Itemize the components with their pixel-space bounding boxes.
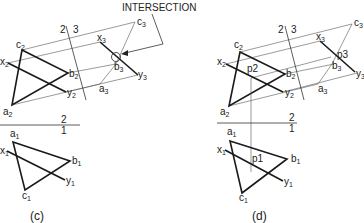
fold-2-1-bottom: 1 [289,123,295,134]
label-b1: b1 [72,155,82,167]
line-xy-view1 [7,151,65,180]
label-c3: c3 [137,16,146,28]
label-b3: b3 [332,60,342,72]
label-p1: p1 [252,153,264,164]
caption-c: (c) [30,209,44,223]
plane-abc-view2 [12,50,68,105]
label-a3: a3 [318,83,328,95]
label-a2: a2 [3,106,13,118]
label-x1: x1 [217,144,226,156]
label-c2: c2 [234,39,243,51]
label-b3: b3 [114,61,124,73]
fold-2-1-bottom: 1 [61,125,67,136]
label-x3: x3 [316,31,325,43]
fold-2-3-left: 2 [278,24,284,35]
descriptive-geometry-diagram: 2 3 INTERSECTION c2 x2 b2 y2 a2 c3 x3 b3… [0,0,364,223]
label-c1: c1 [22,190,31,202]
label-y3: y3 [138,69,147,81]
fold-2-3-right: 3 [73,24,79,35]
fold-2-3-right: 3 [291,24,297,35]
label-y2: y2 [67,87,76,99]
label-a1: a1 [227,126,237,138]
label-p3: p3 [337,49,349,60]
label-a1: a1 [10,128,20,140]
caption-d: (d) [252,209,267,223]
label-y2: y2 [285,87,294,99]
plane-abc-view1 [13,142,70,190]
fold-2-1-top: 2 [61,114,67,125]
label-x1: x1 [0,145,9,157]
label-b2: b2 [69,68,79,80]
label-x3: x3 [97,32,106,44]
label-c1: c1 [239,192,248,204]
intersection-label: INTERSECTION [122,2,196,13]
label-y1: y1 [284,176,293,188]
label-a2: a2 [220,106,230,118]
fold-2-3-left: 2 [60,24,66,35]
intersection-leader [125,14,163,53]
label-x2: x2 [0,56,9,68]
panel-d: 2 3 c2 x2 p2 b2 y2 a2 c3 x3 p3 b3 y3 a3 … [217,17,364,223]
label-b2: b2 [286,68,296,80]
label-c3: c3 [354,17,363,29]
fold-2-1-top: 2 [289,112,295,123]
label-a3: a3 [99,83,109,95]
label-b1: b1 [291,153,301,165]
label-p2: p2 [247,63,259,74]
panel-c: 2 3 INTERSECTION c2 x2 b2 y2 a2 c3 x3 b3… [0,2,196,223]
label-c2: c2 [16,39,25,51]
label-x2: x2 [217,56,226,68]
label-y3: y3 [356,68,364,80]
label-y1: y1 [66,175,75,187]
